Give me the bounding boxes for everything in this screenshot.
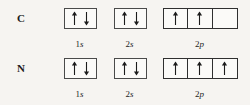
spin-down-arrow-icon — [133, 61, 140, 76]
orbital-group-2p: 2p — [163, 8, 238, 29]
orbital-box — [213, 9, 237, 28]
orbital-box — [188, 9, 212, 28]
spin-up-arrow-icon — [121, 11, 128, 26]
spin-up-arrow-icon — [71, 61, 78, 76]
orbital-label-letter: s — [80, 39, 84, 49]
spin-container — [115, 9, 146, 28]
element-symbol: C — [17, 12, 37, 24]
orbital-group-2s: 2s — [114, 8, 147, 29]
orbital-label-letter: s — [130, 89, 134, 99]
spin-down-arrow-icon — [83, 61, 90, 76]
element-symbol: N — [17, 62, 37, 74]
spin-up-arrow-icon — [196, 11, 203, 26]
orbital-box-row — [163, 8, 238, 29]
orbital-box — [164, 9, 188, 28]
orbital-label: 1s — [64, 89, 95, 99]
orbital-label: 2p — [163, 39, 236, 49]
spin-container — [115, 59, 146, 78]
orbital-box-row — [114, 8, 147, 29]
orbital-box — [164, 59, 188, 78]
orbital-label: 1s — [64, 39, 95, 49]
orbital-group-2p: 2p — [163, 58, 238, 79]
spin-container — [213, 9, 237, 28]
orbital-label-letter: s — [80, 89, 84, 99]
orbital-label: 2p — [163, 89, 236, 99]
orbital-group-1s: 1s — [64, 8, 97, 29]
orbital-box — [115, 9, 146, 28]
spin-down-arrow-icon — [133, 11, 140, 26]
spin-container — [65, 9, 96, 28]
orbital-box — [213, 59, 237, 78]
orbital-box — [65, 9, 96, 28]
spin-up-arrow-icon — [196, 61, 203, 76]
orbital-group-1s: 1s — [64, 58, 97, 79]
spin-container — [164, 9, 187, 28]
orbital-box — [188, 59, 212, 78]
element-row-c: C1s2s2p — [0, 0, 250, 52]
spin-up-arrow-icon — [172, 61, 179, 76]
orbital-diagram: C1s2s2pN1s2s2p — [0, 0, 250, 105]
orbital-box — [115, 59, 146, 78]
orbital-label: 2s — [114, 89, 145, 99]
orbital-box — [65, 59, 96, 78]
orbital-label-letter: p — [200, 39, 205, 49]
orbital-box-row — [163, 58, 238, 79]
spin-down-arrow-icon — [83, 11, 90, 26]
spin-up-arrow-icon — [71, 11, 78, 26]
spin-up-arrow-icon — [172, 11, 179, 26]
orbital-box-row — [114, 58, 147, 79]
orbital-label: 2s — [114, 39, 145, 49]
orbital-group-2s: 2s — [114, 58, 147, 79]
spin-container — [164, 59, 187, 78]
spin-up-arrow-icon — [121, 61, 128, 76]
spin-container — [65, 59, 96, 78]
element-row-n: N1s2s2p — [0, 50, 250, 102]
orbital-label-letter: s — [130, 39, 134, 49]
spin-container — [213, 59, 237, 78]
spin-container — [188, 9, 211, 28]
orbital-box-row — [64, 8, 97, 29]
orbital-label-letter: p — [200, 89, 205, 99]
spin-up-arrow-icon — [221, 61, 228, 76]
orbital-box-row — [64, 58, 97, 79]
spin-container — [188, 59, 211, 78]
